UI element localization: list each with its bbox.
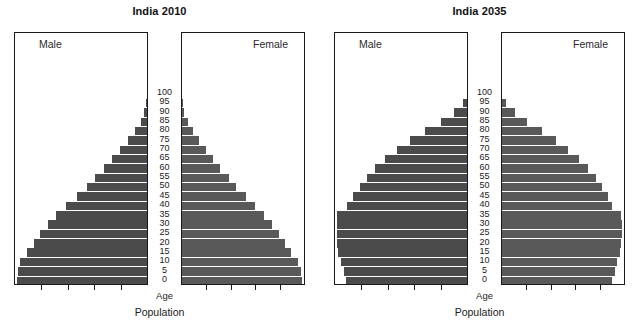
bar-female-age-25	[502, 230, 622, 238]
age-tick-60: 60	[468, 163, 501, 172]
bar-female-age-35	[182, 211, 264, 219]
bar-row	[335, 201, 467, 210]
bar-row	[502, 182, 624, 191]
x-axis-label-2010: Population	[0, 306, 319, 318]
bar-row	[335, 89, 467, 98]
age-tick-10: 10	[148, 256, 181, 265]
bar-row	[15, 182, 147, 191]
bar-row	[335, 229, 467, 238]
x-tick	[280, 285, 281, 290]
age-tick-90: 90	[468, 107, 501, 116]
age-tick-80: 80	[148, 125, 181, 134]
bar-row	[182, 182, 304, 191]
bar-row	[335, 210, 467, 219]
bar-row	[182, 229, 304, 238]
x-axis-ticks-male-2035	[334, 285, 468, 293]
age-tick-20: 20	[468, 238, 501, 247]
x-axis-ticks-male-2010	[14, 285, 148, 293]
age-tick-70: 70	[468, 144, 501, 153]
bar-row	[335, 126, 467, 135]
bar-row	[502, 89, 624, 98]
bar-female-age-65	[502, 155, 579, 163]
age-tick-10: 10	[468, 256, 501, 265]
x-tick	[388, 285, 389, 290]
bar-male-age-10	[20, 258, 147, 266]
bar-row	[335, 220, 467, 229]
bar-female-age-40	[182, 202, 255, 210]
bar-male-age-50	[87, 183, 147, 191]
bar-male-age-20	[337, 239, 467, 247]
bar-male-age-75	[128, 136, 148, 144]
bar-row	[15, 238, 147, 247]
age-tick-50: 50	[148, 181, 181, 190]
age-axis-caption-2010: Age	[148, 290, 181, 301]
bar-row	[15, 173, 147, 182]
x-tick	[575, 285, 576, 290]
bar-row	[502, 220, 624, 229]
age-tick-15: 15	[468, 247, 501, 256]
age-tick-65: 65	[148, 153, 181, 162]
x-tick	[231, 285, 232, 290]
bar-row	[182, 276, 304, 285]
bar-female-age-20	[182, 239, 285, 247]
bar-female-age-15	[502, 248, 620, 256]
bar-row	[182, 238, 304, 247]
bar-male-age-5	[344, 267, 468, 275]
bar-row	[182, 210, 304, 219]
bar-female-age-45	[182, 192, 246, 200]
bar-row	[335, 276, 467, 285]
bar-row	[502, 135, 624, 144]
bar-male-age-30	[48, 220, 147, 228]
bar-row	[502, 154, 624, 163]
age-tick-75: 75	[468, 135, 501, 144]
bar-female-age-50	[502, 183, 602, 191]
age-tick-15: 15	[148, 247, 181, 256]
age-tick-85: 85	[468, 116, 501, 125]
bar-row	[15, 89, 147, 98]
bar-male-age-35	[56, 211, 147, 219]
bar-row	[335, 173, 467, 182]
age-tick-40: 40	[148, 200, 181, 209]
bar-row	[335, 192, 467, 201]
bar-female-age-40	[502, 202, 612, 210]
bar-row	[15, 257, 147, 266]
bar-female-age-5	[182, 267, 301, 275]
bar-row	[502, 229, 624, 238]
bar-male-age-45	[353, 192, 467, 200]
bars-female-2010	[182, 33, 304, 284]
bar-male-age-40	[66, 202, 147, 210]
bar-male-age-15	[338, 248, 467, 256]
bar-male-age-70	[120, 146, 147, 154]
bar-female-age-95	[182, 99, 183, 107]
bar-row	[182, 154, 304, 163]
age-tick-100: 100	[468, 88, 501, 97]
bar-female-age-70	[182, 146, 206, 154]
bar-male-age-30	[337, 220, 467, 228]
bar-female-age-10	[502, 258, 617, 266]
bar-female-age-55	[502, 174, 596, 182]
age-tick-35: 35	[148, 210, 181, 219]
bar-row	[182, 126, 304, 135]
bar-row	[502, 117, 624, 126]
bar-male-age-85	[141, 118, 148, 126]
bar-male-age-15	[27, 248, 147, 256]
bar-row	[182, 220, 304, 229]
bar-row	[502, 276, 624, 285]
bar-female-age-35	[502, 211, 621, 219]
bar-row	[182, 173, 304, 182]
bar-row	[182, 89, 304, 98]
age-tick-65: 65	[468, 153, 501, 162]
age-tick-45: 45	[468, 191, 501, 200]
bar-male-age-65	[112, 155, 147, 163]
age-axis-2010: 0510152025303540455055606570758085909510…	[148, 32, 181, 285]
chart-title-2035: India 2035	[320, 5, 639, 17]
x-axis-label-2035: Population	[320, 306, 639, 318]
bar-row	[335, 182, 467, 191]
bar-male-age-90	[144, 108, 147, 116]
age-tick-95: 95	[148, 97, 181, 106]
x-tick	[206, 285, 207, 290]
x-tick	[41, 285, 42, 290]
bar-male-age-5	[18, 267, 147, 275]
bar-female-age-30	[182, 220, 272, 228]
bar-row	[182, 163, 304, 172]
